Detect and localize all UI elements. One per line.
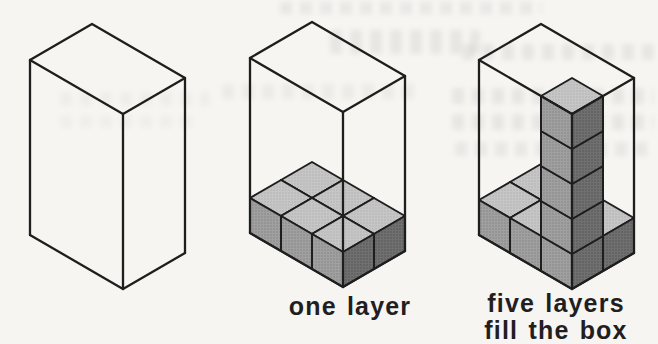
caption-line: fill the box xyxy=(456,317,656,344)
caption-five-layers: five layers fill the box xyxy=(456,290,656,344)
caption-one-layer: one layer xyxy=(250,293,450,320)
box-bottom-edges xyxy=(30,235,185,289)
scanned-textbook-page: { "page": { "background_color": "#f6f5f2… xyxy=(0,0,658,344)
box-top-face xyxy=(30,24,185,114)
caption-line: five layers xyxy=(456,290,656,317)
caption-line: one layer xyxy=(250,293,450,320)
five-layers-figure xyxy=(479,24,634,289)
one-layer-figure xyxy=(250,22,405,287)
box-wireframe xyxy=(30,24,185,289)
box-top-face xyxy=(250,22,405,112)
empty-box-figure xyxy=(30,24,185,289)
page-stage: one layer five layers fill the box xyxy=(0,0,658,344)
